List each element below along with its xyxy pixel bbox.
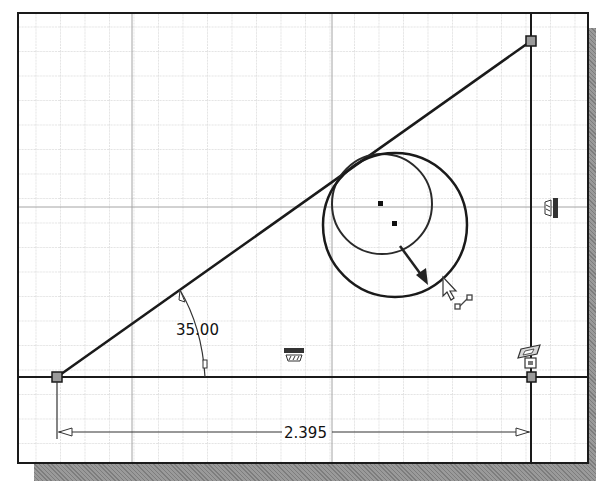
horizontal-constraint-icon[interactable] [284,348,304,361]
circle-center-point[interactable] [378,201,383,206]
horizontal-dimension-value[interactable]: 2.395 [284,424,327,442]
sketch-point-bottom-right[interactable] [527,372,536,382]
angle-dimension-value[interactable]: 35.00 [176,321,219,339]
grid [19,14,589,464]
sketch-point-top-right[interactable] [526,36,536,46]
sketch-point-bottom-left[interactable] [52,372,62,382]
fix-constraint-icon[interactable] [525,358,536,368]
vertical-constraint-icon[interactable] [545,198,558,218]
sketch-canvas[interactable]: 35.00 2.395 [17,12,589,464]
circle-center-point[interactable] [392,221,397,226]
